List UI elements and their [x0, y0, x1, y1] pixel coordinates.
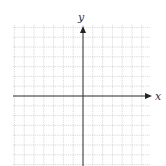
- y-axis-label: y: [77, 11, 85, 24]
- x-axis-arrow-icon: [145, 93, 152, 99]
- coordinate-plane: x y: [0, 0, 166, 166]
- x-axis-label: x: [155, 90, 162, 103]
- y-axis-arrow-icon: [80, 26, 86, 33]
